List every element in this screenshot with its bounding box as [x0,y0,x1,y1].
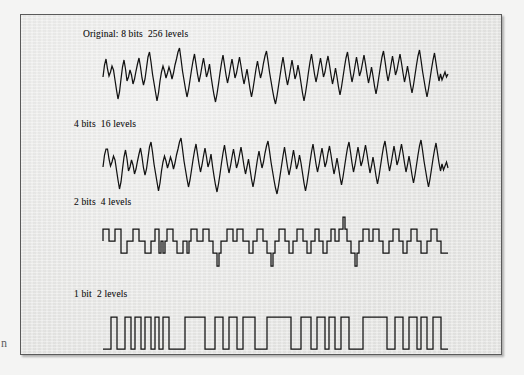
page-edge-glyph: n [1,337,8,350]
figure-frame: Original: 8 bits 256 levels 4 bits 16 le… [20,14,502,355]
waveform-1bit [101,303,451,355]
label-1bit: 1 bit 2 levels [74,289,127,299]
waveform-2bit [101,211,451,277]
label-4bit: 4 bits 16 levels [74,119,136,129]
label-2bit: 2 bits 4 levels [74,197,131,207]
label-original-8bit: Original: 8 bits 256 levels [83,29,188,39]
scanned-page-background: n Original: 8 bits 256 levels 4 bits 16 … [0,0,524,375]
waveform-original-8bit [101,43,451,105]
waveform-4bit [101,133,451,195]
